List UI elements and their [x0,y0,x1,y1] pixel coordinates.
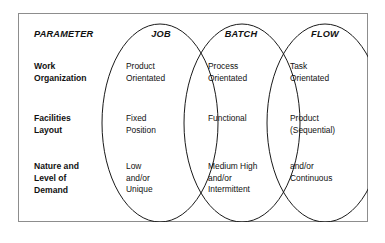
matrix-text-layer: PARAMETER JOB BATCH FLOW Work Organizati… [18,13,368,222]
cell-work-organization-batch: Process Orientated [208,61,284,84]
cell-nature-level-of-demand-job: Low and/or Unique [126,161,196,196]
cell-facilities-layout-job: Fixed Position [126,113,196,136]
column-header-job: JOB [126,29,196,41]
cell-work-organization-flow: Task Orientated [290,61,368,84]
row-label-facilities-layout: Facilities Layout [34,113,118,137]
cell-facilities-layout-batch: Functional [208,113,284,125]
column-header-parameter: PARAMETER [34,29,118,41]
cell-nature-level-of-demand-flow: and/or Continuous [290,161,368,184]
cell-nature-level-of-demand-batch: Medium High and/or Intermittent [208,161,284,196]
row-label-nature-level-of-demand: Nature and Level of Demand [34,161,118,196]
column-header-flow: FLOW [290,29,360,41]
column-header-batch: BATCH [206,29,276,41]
cell-facilities-layout-flow: Product (Sequential) [290,113,368,136]
row-label-work-organization: Work Organization [34,61,118,85]
cell-work-organization-job: Product Orientated [126,61,196,84]
process-choice-diagram: PARAMETER JOB BATCH FLOW Work Organizati… [0,0,385,243]
